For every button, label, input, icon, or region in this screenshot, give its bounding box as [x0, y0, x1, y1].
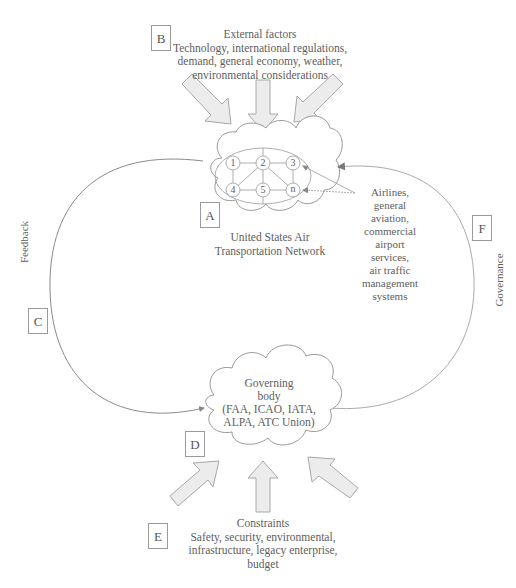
arrow-bottom-right	[308, 457, 358, 498]
external-factors-line: environmental considerations	[170, 69, 350, 83]
node-3: 3	[286, 156, 300, 170]
node-1: 1	[226, 156, 240, 170]
arrow-bottom-center	[248, 461, 278, 512]
label-e: E	[148, 523, 168, 549]
external-factors-line: demand, general economy, weather,	[170, 55, 350, 69]
participants-line: aviation,	[350, 212, 430, 225]
external-factors-line: Technology, international regulations,	[170, 42, 350, 56]
governing-body-text: Governing body (FAA, ICAO, IATA, ALPA, A…	[206, 377, 332, 429]
external-factors-text: External factors Technology, internation…	[170, 28, 350, 82]
label-b: B	[151, 25, 171, 51]
participants-line: services,	[350, 251, 430, 264]
node-n: n	[286, 182, 300, 196]
constraints-line: budget	[183, 558, 343, 572]
external-factors-title: External factors	[170, 28, 350, 42]
participants-line: management	[350, 277, 430, 290]
diagram-graphics	[0, 0, 516, 588]
participants-line: airport	[350, 238, 430, 251]
constraints-text: Constraints Safety, security, environmen…	[183, 517, 343, 571]
feedback-arc	[50, 159, 204, 413]
governing-body-line: body	[206, 390, 332, 403]
network-caption: United States Air Transportation Network	[210, 231, 330, 258]
label-f: F	[472, 215, 492, 241]
node-2: 2	[256, 156, 270, 170]
label-c: C	[28, 308, 48, 334]
label-a: A	[200, 202, 220, 228]
governing-body-line: ALPA, ATC Union)	[206, 416, 332, 429]
constraint-arrows	[170, 457, 358, 512]
governance-label: Governance	[493, 250, 505, 310]
participants-text: Airlines, general aviation, commercial a…	[350, 186, 430, 303]
constraints-line: infrastructure, legacy enterprise,	[183, 544, 343, 558]
participants-line: commercial	[350, 225, 430, 238]
network-caption-line: United States Air	[210, 231, 330, 245]
network-caption-line: Transportation Network	[210, 245, 330, 259]
governing-body-line: Governing	[206, 377, 332, 390]
arrow-bottom-left	[170, 461, 219, 506]
node-5: 5	[256, 183, 270, 197]
constraints-title: Constraints	[183, 517, 343, 531]
constraints-line: Safety, security, environmental,	[183, 531, 343, 545]
participants-line: systems	[350, 290, 430, 303]
label-d: D	[185, 431, 205, 457]
air-transportation-system-diagram: B External factors Technology, internati…	[0, 0, 516, 588]
feedback-label: Feedback	[18, 212, 30, 272]
node-4: 4	[226, 183, 240, 197]
governing-body-line: (FAA, ICAO, IATA,	[206, 403, 332, 416]
participants-line: air traffic	[350, 264, 430, 277]
participants-line: Airlines,	[350, 186, 430, 199]
participants-line: general	[350, 199, 430, 212]
